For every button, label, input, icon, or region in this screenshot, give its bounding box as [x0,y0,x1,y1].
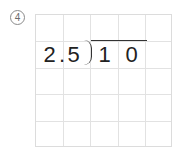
grid-line [118,15,119,146]
grid-line [36,121,171,122]
long-division-grid [35,14,172,147]
grid-line [63,15,64,146]
dividend-digit-1: 1 [91,43,118,67]
division-vinculum [91,40,147,41]
grid-line [36,94,171,95]
problem-number: 4 [15,12,21,23]
problem-number-badge: 4 [10,10,25,25]
grid-line [36,68,171,69]
dividend-digit-2: 0 [118,43,145,67]
divisor-fraction-digit: 5 [60,43,87,67]
grid-line [90,15,91,146]
grid-line [145,15,146,146]
